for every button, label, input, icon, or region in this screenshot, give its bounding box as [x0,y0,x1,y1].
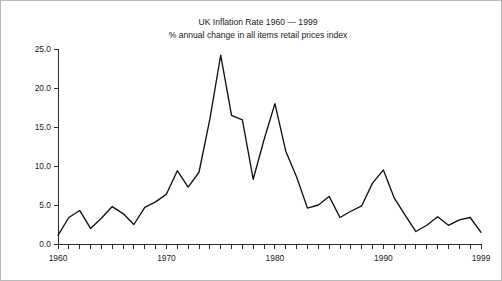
y-tick-label: 5.0 [39,200,51,210]
chart-title: UK Inflation Rate 1960 — 1999 [199,17,318,27]
y-tick-label: 0.0 [39,239,51,249]
y-tick-label: 25.0 [35,44,52,54]
x-tick-label: 1999 [472,253,491,263]
chart-figure: UK Inflation Rate 1960 — 1999 % annual c… [0,0,502,281]
x-axis: 19601970198019901999 [49,244,491,263]
y-tick-label: 15.0 [35,122,52,132]
inflation-series-line [58,55,481,235]
y-axis: 0.05.010.015.020.025.0 [35,44,58,249]
y-tick-label: 20.0 [35,83,52,93]
chart-subtitle: % annual change in all items retail pric… [169,30,348,40]
x-tick-label: 1970 [157,253,176,263]
y-tick-label: 10.0 [35,161,52,171]
x-tick-label: 1990 [374,253,393,263]
x-tick-label: 1960 [49,253,68,263]
x-tick-label: 1980 [266,253,285,263]
inflation-line-chart: UK Inflation Rate 1960 — 1999 % annual c… [1,1,502,281]
